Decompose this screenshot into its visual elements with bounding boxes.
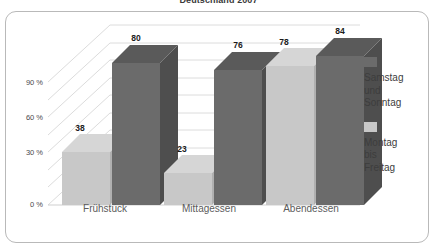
- legend-swatch-dark-icon: [364, 57, 377, 67]
- x-tick-mittagessen: Mittagessen: [163, 203, 255, 214]
- legend-label-samstag-und-sonntag: Samstag und Sonntag: [364, 72, 426, 110]
- y-tick-30: 30 %: [3, 148, 43, 157]
- chart-legend: Samstag und Sonntag Montag bis Freitag: [364, 57, 426, 186]
- value-label-abendessen-light: 78: [266, 37, 302, 47]
- x-tick-abendessen: Abendessen: [265, 203, 357, 214]
- value-label-fruehstueck-light: 38: [62, 123, 98, 133]
- legend-entry-samstag-und-sonntag: Samstag und Sonntag: [364, 57, 426, 110]
- plot-area: 90 % 60 % 30 % 0 % Frühstück Mittagessen…: [0, 0, 437, 251]
- legend-label-montag-bis-freitag: Montag bis Freitag: [364, 137, 426, 175]
- value-label-mittagessen-light: 23: [164, 144, 200, 154]
- x-tick-fruehstueck: Frühstück: [60, 203, 150, 214]
- legend-swatch-light-icon: [364, 122, 377, 132]
- legend-entry-montag-bis-freitag: Montag bis Freitag: [364, 122, 426, 175]
- value-label-fruehstueck-dark: 80: [118, 33, 154, 43]
- value-label-mittagessen-dark: 76: [220, 40, 256, 50]
- value-label-abendessen-dark: 84: [322, 26, 358, 36]
- y-tick-0: 0 %: [3, 200, 43, 209]
- y-tick-90: 90 %: [3, 78, 43, 87]
- y-tick-60: 60 %: [3, 113, 43, 122]
